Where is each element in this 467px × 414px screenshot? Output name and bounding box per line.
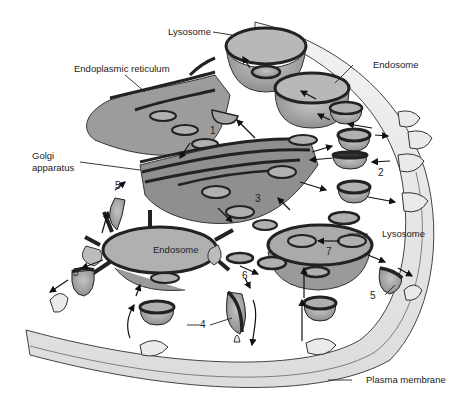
step-5-golgi: 5 bbox=[115, 181, 121, 191]
label-golgi-apparatus: apparatus bbox=[32, 162, 74, 173]
step-6: 6 bbox=[242, 271, 248, 281]
label-golgi-line2: apparatus bbox=[32, 162, 74, 173]
step-2: 2 bbox=[378, 168, 384, 178]
label-endosome-top: Endosome bbox=[373, 59, 418, 70]
step-7: 7 bbox=[326, 247, 332, 257]
label-plasma-membrane: Plasma membrane bbox=[366, 374, 446, 385]
label-golgi-line1: Golgi bbox=[32, 150, 54, 161]
label-lysosome-top: Lysosome bbox=[168, 26, 211, 37]
step-4: 4 bbox=[200, 320, 206, 330]
label-endoplasmic-reticulum: Endoplasmic reticulum bbox=[74, 63, 170, 74]
label-endosome-center: Endosome bbox=[153, 244, 198, 255]
step-5-left: 5 bbox=[73, 268, 79, 278]
lysosome-right bbox=[227, 212, 372, 290]
step-1: 1 bbox=[210, 126, 216, 136]
step-3: 3 bbox=[255, 194, 261, 204]
label-lysosome-right: Lysosome bbox=[382, 228, 425, 239]
step-5-right: 5 bbox=[370, 291, 376, 301]
